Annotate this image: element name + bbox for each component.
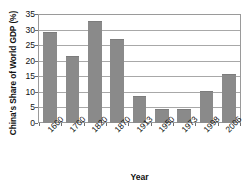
- y-tick-mark: [35, 14, 38, 15]
- x-axis-title: Year: [38, 172, 241, 182]
- y-tick-label: 5: [17, 103, 35, 112]
- y-tick-mark: [35, 107, 38, 108]
- bar: [43, 32, 57, 123]
- bar-chart: China's Share of World GDP (%) 051015202…: [0, 0, 250, 192]
- bar: [88, 21, 102, 123]
- y-tick-label: 15: [17, 72, 35, 81]
- bar-series: [39, 15, 240, 123]
- y-tick-mark: [35, 76, 38, 77]
- y-tick-label: 35: [17, 10, 35, 19]
- y-tick-mark: [35, 61, 38, 62]
- y-tick-label: 20: [17, 57, 35, 66]
- y-tick-mark: [35, 45, 38, 46]
- y-tick-mark: [35, 30, 38, 31]
- y-tick-mark: [35, 92, 38, 93]
- y-tick-label: 0: [17, 119, 35, 128]
- bar: [66, 56, 80, 123]
- y-tick-label: 30: [17, 26, 35, 35]
- y-tick-label: 10: [17, 88, 35, 97]
- bar: [110, 39, 124, 123]
- y-tick-label: 25: [17, 41, 35, 50]
- x-tick-mark: [39, 123, 40, 126]
- y-tick-mark: [35, 123, 38, 124]
